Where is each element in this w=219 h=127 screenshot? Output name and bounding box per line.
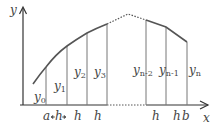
tick-h-5: h	[173, 109, 181, 123]
curve-dotted	[107, 14, 146, 24]
tick-h-3: h	[94, 109, 102, 123]
tick-b: b	[182, 109, 190, 123]
tick-h-2: h	[74, 109, 82, 123]
label-y2: y2	[73, 65, 86, 80]
ordinate-lines	[46, 20, 187, 105]
y-axis-label: y	[9, 3, 17, 17]
label-yn: yn	[188, 63, 201, 78]
label-y3: y3	[93, 65, 106, 80]
label-yn-1: yn-1	[158, 63, 179, 78]
x-axis-label: x	[203, 111, 210, 125]
tick-h-1: h	[55, 109, 63, 123]
label-y1: y1	[53, 79, 66, 94]
trapezoid-diagram: y x y0 y1 y2 y3 yn-2 yn-1 yn a h h h h h…	[0, 0, 219, 127]
tick-h-4: h	[152, 109, 160, 123]
label-yn-2: yn-2	[132, 63, 153, 78]
label-y0: y0	[33, 90, 46, 105]
tick-a: a	[43, 109, 50, 123]
